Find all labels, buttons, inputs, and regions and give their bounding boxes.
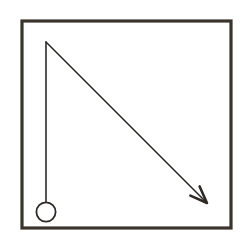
pendulum-bob: [36, 202, 55, 221]
diagram-canvas: [0, 0, 245, 244]
pendulum-diagram-figure: [0, 0, 245, 244]
